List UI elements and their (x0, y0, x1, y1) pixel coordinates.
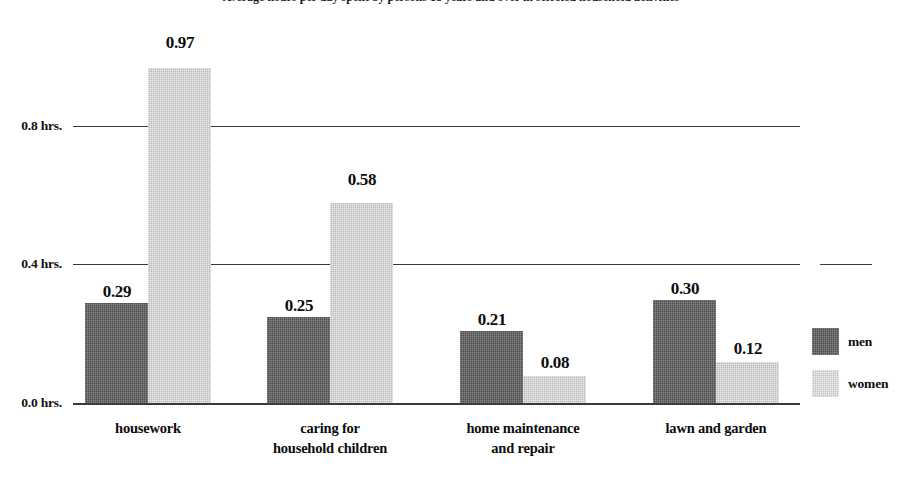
legend-label-men: men (848, 334, 872, 350)
chart-legend: men women (0, 0, 902, 487)
chart-page: Average hours per day spent by persons 1… (0, 0, 902, 487)
legend-label-women: women (848, 376, 888, 392)
legend-swatch-men-icon (812, 328, 839, 355)
legend-item-men[interactable]: men (812, 328, 872, 355)
plot-area: 0.8 hrs. 0.4 hrs. 0.0 hrs. 0.29 0.97 hou… (0, 0, 902, 487)
legend-swatch-women-icon (812, 370, 839, 397)
legend-item-women[interactable]: women (812, 370, 888, 397)
